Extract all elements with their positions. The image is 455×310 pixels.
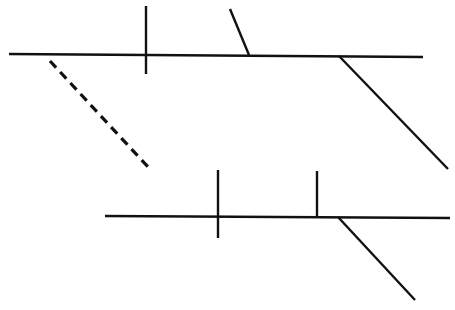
object-slant-divider-top — [230, 9, 249, 55]
connector-dashed — [50, 61, 149, 168]
main-baseline-top — [9, 54, 423, 57]
modifier-diagonal-top-right — [339, 56, 448, 169]
modifier-diagonal-bottom-right — [338, 217, 415, 300]
sentence-diagram — [0, 0, 455, 310]
main-baseline-bottom — [105, 216, 450, 218]
